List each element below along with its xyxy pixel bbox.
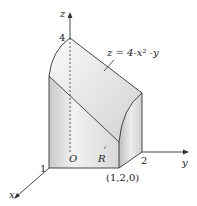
region-label: R	[97, 153, 106, 164]
z-axis-arrow	[68, 12, 73, 18]
z-intercept-label: 4	[59, 32, 65, 43]
surface-equation-label: z = 4-x² -y	[106, 47, 159, 58]
z-axis-label: z	[59, 8, 66, 19]
x-tick-label: 1	[40, 163, 46, 174]
x-axis-label: x	[9, 189, 15, 200]
solid-diagram: z y x 4 O R 1 2 (1,2,0) z = 4-x² -y	[0, 0, 197, 206]
y-axis-arrow	[183, 150, 189, 155]
corner-point-label: (1,2,0)	[106, 172, 139, 183]
y-tick-label: 2	[141, 155, 147, 166]
y-axis-label: y	[181, 157, 188, 168]
origin-label: O	[69, 153, 77, 164]
